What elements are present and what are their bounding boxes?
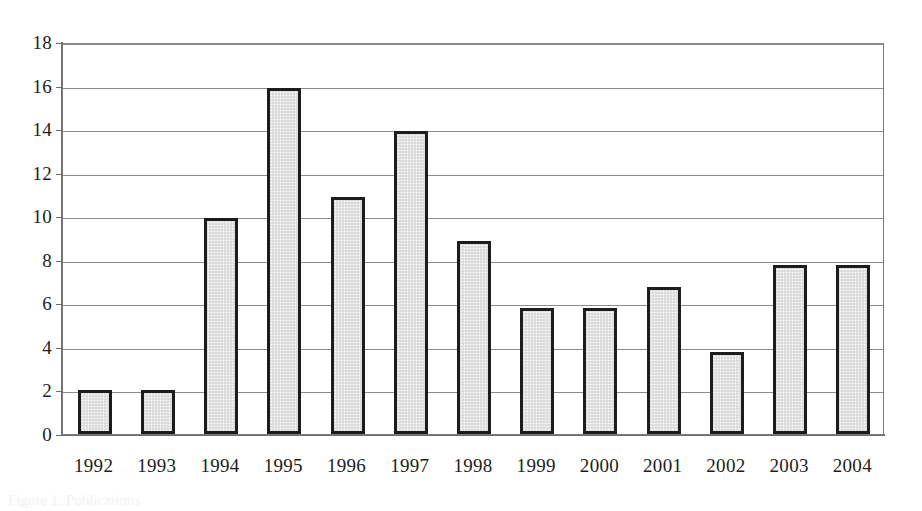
y-tick-label: 0: [8, 425, 52, 444]
x-axis-tick-labels: 1992199319941995199619971998199920002001…: [62, 455, 884, 485]
gridline: [63, 44, 883, 45]
bar: [394, 131, 428, 434]
gridline: [63, 88, 883, 89]
y-tick-label: 16: [8, 77, 52, 96]
gridline: [63, 175, 883, 176]
y-tick-label: 6: [8, 294, 52, 313]
y-tick-label: 12: [8, 164, 52, 183]
x-tick-label: 2003: [758, 455, 821, 477]
y-tick-mark: [56, 261, 63, 262]
gridline: [63, 131, 883, 132]
x-tick-label: 1997: [378, 455, 441, 477]
bar: [204, 218, 238, 434]
y-tick-mark: [56, 435, 63, 436]
x-tick-label: 2004: [821, 455, 884, 477]
y-tick-mark: [56, 304, 63, 305]
x-tick-label: 1992: [62, 455, 125, 477]
plot-area: [62, 43, 884, 435]
bar: [267, 88, 301, 434]
bar: [773, 265, 807, 434]
x-tick-label: 1993: [125, 455, 188, 477]
bar: [78, 390, 112, 434]
bar: [710, 352, 744, 434]
x-tick-label: 1999: [505, 455, 568, 477]
y-tick-mark: [56, 348, 63, 349]
x-tick-label: 2001: [631, 455, 694, 477]
bar-chart-figure: 024681012141618 199219931994199519961997…: [0, 0, 922, 511]
y-tick-mark: [56, 174, 63, 175]
caption-fragment: Figure 1. Publications: [8, 492, 568, 509]
x-tick-label: 1996: [315, 455, 378, 477]
y-tick-label: 14: [8, 120, 52, 139]
bar: [520, 308, 554, 434]
y-tick-label: 2: [8, 381, 52, 400]
x-tick-label: 1998: [441, 455, 504, 477]
y-tick-label: 8: [8, 251, 52, 270]
x-tick-label: 2002: [694, 455, 757, 477]
bar: [457, 241, 491, 434]
y-tick-mark: [56, 391, 63, 392]
y-tick-mark: [56, 217, 63, 218]
bar: [331, 197, 365, 434]
y-tick-label: 10: [8, 207, 52, 226]
y-tick-label: 4: [8, 338, 52, 357]
bar: [836, 265, 870, 434]
bar: [647, 287, 681, 434]
bar: [141, 390, 175, 434]
y-tick-mark: [56, 43, 63, 44]
y-tick-label: 18: [8, 33, 52, 52]
x-tick-label: 1994: [188, 455, 251, 477]
y-tick-mark: [56, 87, 63, 88]
y-tick-mark: [56, 130, 63, 131]
gridline: [63, 218, 883, 219]
bar: [583, 308, 617, 434]
x-tick-label: 2000: [568, 455, 631, 477]
y-axis-tick-labels: 024681012141618: [0, 0, 52, 511]
x-tick-label: 1995: [252, 455, 315, 477]
